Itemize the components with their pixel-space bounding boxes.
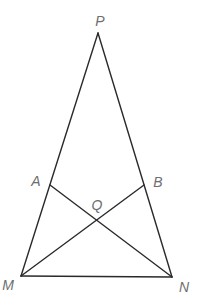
label-q: Q: [92, 197, 103, 213]
segment-mn: [21, 276, 172, 277]
label-p: P: [95, 13, 105, 29]
label-b: B: [153, 174, 162, 190]
segment-pn: [98, 33, 172, 277]
segments: [21, 33, 172, 277]
triangle-diagram: P A B Q M N: [0, 0, 197, 302]
label-m: M: [2, 277, 14, 293]
segment-bm: [21, 185, 144, 276]
segment-an: [50, 185, 172, 277]
label-a: A: [30, 173, 40, 189]
point-labels: P A B Q M N: [2, 13, 190, 295]
label-n: N: [179, 279, 190, 295]
segment-pm: [21, 33, 98, 276]
